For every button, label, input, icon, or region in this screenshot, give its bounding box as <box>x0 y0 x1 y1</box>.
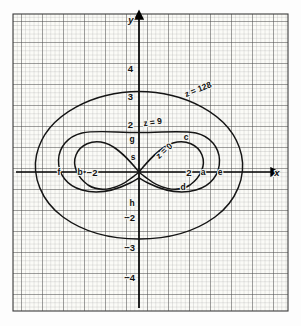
x-tick-minus2: −2 <box>87 167 98 178</box>
contour-plot-figure: 4 3 2 −2 −3 −4 −2 2 x y z = 128 z = 9 z … <box>0 0 301 326</box>
y-tick-3: 3 <box>128 91 133 102</box>
y-tick-minus2: −2 <box>124 212 135 223</box>
y-axis-label: y <box>127 14 134 25</box>
point-label-e: e <box>218 167 223 177</box>
x-axis-label: x <box>273 167 280 178</box>
y-tick-2: 2 <box>128 119 133 130</box>
point-label-h: h <box>129 198 134 208</box>
y-tick-4: 4 <box>128 63 134 74</box>
y-tick-minus3: −3 <box>124 242 135 253</box>
point-label-c: c <box>184 132 189 142</box>
y-tick-minus4: −4 <box>124 272 136 283</box>
point-label-d: d <box>180 182 185 192</box>
plot-canvas: 4 3 2 −2 −3 −4 −2 2 x y z = 128 z = 9 z … <box>0 0 301 326</box>
graph-paper <box>13 14 288 311</box>
point-label-a: a <box>201 167 206 177</box>
x-tick-2: 2 <box>186 167 191 178</box>
point-label-f: f <box>58 167 61 177</box>
point-label-b: b <box>77 167 82 177</box>
point-label-s: s <box>131 152 136 162</box>
point-label-g: g <box>129 134 134 144</box>
